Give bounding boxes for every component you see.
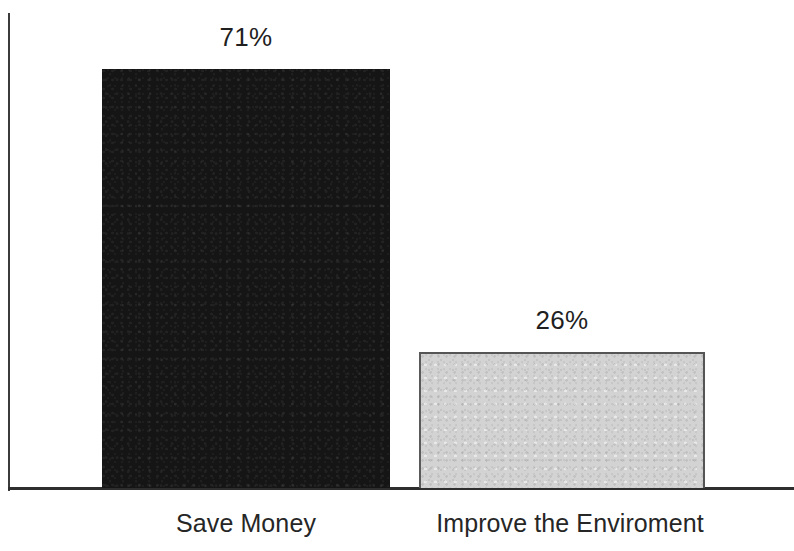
category-label-save-money: Save Money [102, 509, 390, 538]
bar-save-money [102, 69, 390, 488]
category-label-improve-the-enviroment: Improve the Enviroment [400, 509, 740, 538]
bar-value-label-improve-the-enviroment: 26% [419, 305, 705, 336]
y-axis-line [8, 13, 10, 491]
bar-value-label-save-money: 71% [102, 22, 390, 53]
bar-improve-the-enviroment [419, 352, 705, 488]
bar-chart: 71% 26% Save Money Improve the Enviromen… [0, 0, 794, 551]
